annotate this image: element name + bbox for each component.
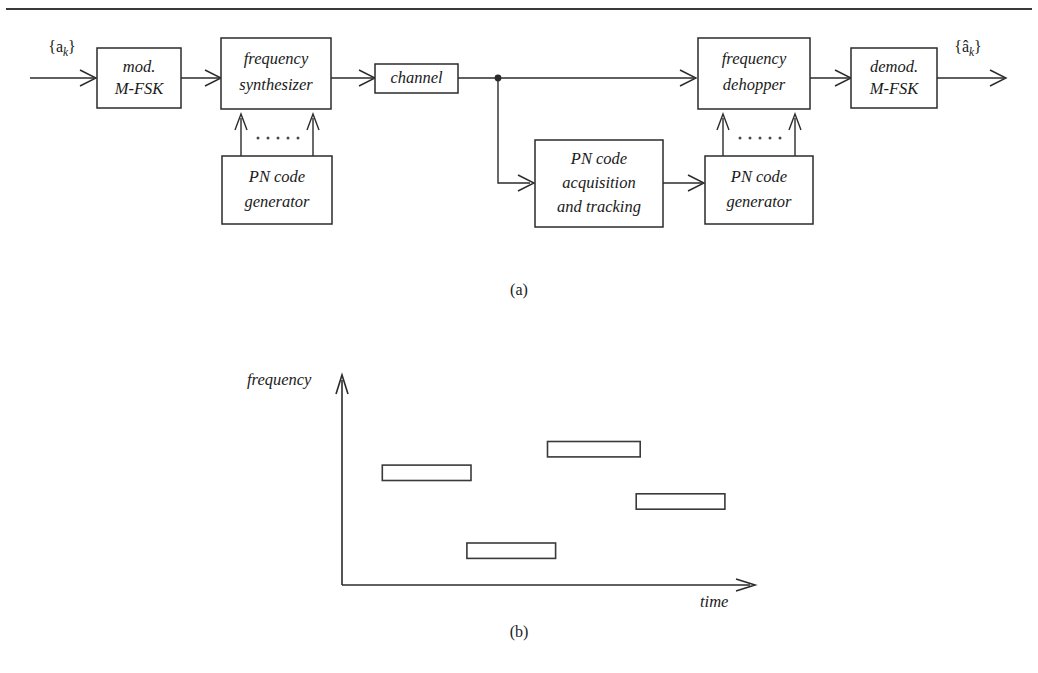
panel-a-block-diagram: {ak} mod. M-FSK frequency synthesizer xyxy=(30,38,1006,299)
hop-rectangle xyxy=(467,543,556,558)
caption-panel-a: (a) xyxy=(510,281,528,299)
block-frequency-synthesizer-line2: synthesizer xyxy=(239,75,313,94)
block-pn-code-generator-rx[interactable]: PN code generator xyxy=(705,156,813,224)
arrow-dehopper-to-demodulator xyxy=(810,70,851,86)
arrow-synthesizer-to-channel xyxy=(331,70,375,86)
chart-x-axis xyxy=(342,579,755,591)
block-pn-code-acquisition[interactable]: PN code acquisition and tracking xyxy=(535,140,663,227)
block-demodulator[interactable]: demod. M-FSK xyxy=(851,48,937,108)
block-pn-code-acquisition-line3: and tracking xyxy=(557,197,641,216)
block-channel[interactable]: channel xyxy=(375,64,458,93)
hop-rectangles xyxy=(382,442,725,559)
block-pn-code-acquisition-line1: PN code xyxy=(570,149,627,168)
block-modulator-line1: mod. xyxy=(123,57,156,76)
block-pn-code-generator-tx[interactable]: PN code generator xyxy=(222,156,332,224)
input-arrow xyxy=(30,70,96,86)
block-frequency-dehopper[interactable]: frequency dehopper xyxy=(698,38,810,109)
chart-x-axis-label: time xyxy=(700,592,728,611)
arrows-pn-rx-to-dehopper xyxy=(717,114,801,156)
block-pn-code-generator-tx-line2: generator xyxy=(244,192,310,211)
block-pn-code-generator-tx-line1: PN code xyxy=(248,167,305,186)
hop-rectangle xyxy=(382,465,471,480)
block-pn-code-acquisition-line2: acquisition xyxy=(562,173,635,192)
chart-y-axis-label: frequency xyxy=(247,370,312,389)
ellipsis-dots-tx xyxy=(257,137,300,140)
block-demodulator-line1: demod. xyxy=(870,57,918,76)
block-frequency-synthesizer[interactable]: frequency synthesizer xyxy=(221,38,331,109)
block-frequency-dehopper-line2: dehopper xyxy=(723,75,786,94)
caption-panel-b: (b) xyxy=(510,623,529,641)
output-arrow xyxy=(937,70,1006,86)
figure-root: {ak} mod. M-FSK frequency synthesizer xyxy=(0,0,1038,673)
block-frequency-synthesizer-line1: frequency xyxy=(244,49,309,68)
block-modulator[interactable]: mod. M-FSK xyxy=(97,48,181,108)
panel-b-hopping-chart: frequency time (b) xyxy=(247,370,755,641)
arrows-pn-tx-to-synthesizer xyxy=(235,114,319,156)
block-modulator-line2: M-FSK xyxy=(114,79,165,98)
block-channel-label: channel xyxy=(390,68,443,87)
block-pn-code-generator-rx-line1: PN code xyxy=(730,167,787,186)
arrow-acquisition-to-pn-rx xyxy=(663,175,704,191)
chart-y-axis xyxy=(336,375,348,585)
ellipsis-dots-rx xyxy=(739,137,782,140)
arrow-modulator-to-synthesizer xyxy=(181,70,221,86)
block-demodulator-line2: M-FSK xyxy=(869,79,920,98)
figure-svg: {ak} mod. M-FSK frequency synthesizer xyxy=(0,0,1038,673)
block-pn-code-generator-rx-line2: generator xyxy=(726,192,792,211)
hop-rectangle xyxy=(636,494,725,509)
block-frequency-dehopper-line1: frequency xyxy=(722,49,787,68)
output-signal-label: {âk} xyxy=(954,38,982,58)
hop-rectangle xyxy=(548,442,641,457)
input-signal-label: {ak} xyxy=(48,38,76,58)
